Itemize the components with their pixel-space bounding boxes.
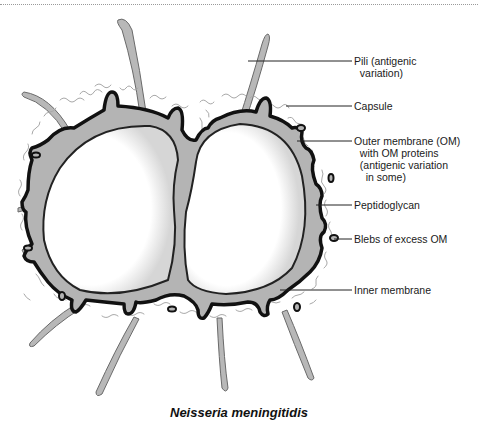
bleb xyxy=(297,125,305,131)
inner-membrane-right xyxy=(184,124,305,294)
pilus-bottom-right xyxy=(282,310,314,380)
label-pili: Pili (antigenic variation) xyxy=(354,55,416,79)
bleb xyxy=(329,174,334,182)
bleb xyxy=(24,246,32,251)
label-peptidoglycan: Peptidoglycan xyxy=(354,199,420,211)
pilus-bottom-center-right xyxy=(217,318,228,391)
label-outer-membrane: Outer membrane (OM) with OM proteins (an… xyxy=(354,135,460,183)
label-capsule: Capsule xyxy=(354,100,393,112)
diagram-caption: Neisseria meningitidis xyxy=(0,405,478,420)
bleb xyxy=(32,153,40,158)
pilus-top-left xyxy=(118,19,147,114)
label-inner-membrane: Inner membrane xyxy=(354,284,431,296)
bleb xyxy=(59,292,65,300)
bleb xyxy=(330,235,338,241)
pilus-bottom-center-left xyxy=(96,317,139,396)
bleb xyxy=(168,307,176,312)
bleb xyxy=(294,303,300,311)
label-blebs: Blebs of excess OM xyxy=(354,233,447,245)
